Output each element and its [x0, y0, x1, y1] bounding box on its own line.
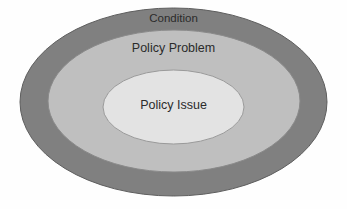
ellipse-policy-issue [103, 70, 244, 144]
ellipse-shapes [0, 0, 347, 209]
concentric-ellipse-diagram: Condition Policy Problem Policy Issue [0, 0, 347, 209]
